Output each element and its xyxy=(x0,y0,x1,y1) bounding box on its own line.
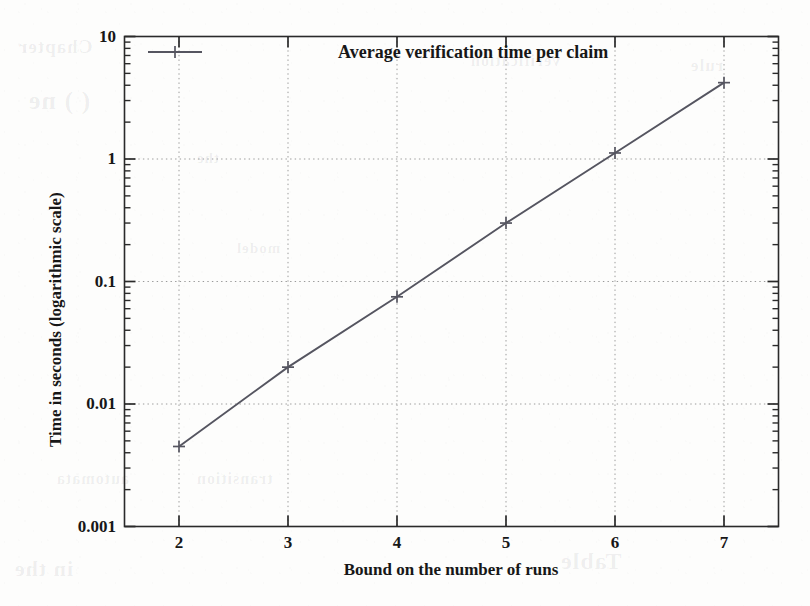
legend-key-sample xyxy=(148,46,202,58)
data-series-layer xyxy=(173,77,730,453)
y-tick-label: 1 xyxy=(20,149,116,169)
y-tick-label: 0.001 xyxy=(20,517,116,537)
x-tick-label: 6 xyxy=(611,533,620,553)
chart-figure: 1010.10.010.001 234567 Bound on the numb… xyxy=(0,0,810,606)
x-tick-label: 5 xyxy=(502,533,511,553)
x-tick-label: 3 xyxy=(284,533,293,553)
x-tick-label: 7 xyxy=(720,533,729,553)
x-tick-label: 4 xyxy=(393,533,402,553)
x-axis-title: Bound on the number of runs xyxy=(344,560,559,580)
y-tick-label: 10 xyxy=(20,27,116,47)
legend-entry-label: Average verification time per claim xyxy=(338,42,608,63)
plot-canvas xyxy=(0,0,810,606)
y-tick-label: 0.01 xyxy=(20,394,116,414)
y-tick-label: 0.1 xyxy=(20,272,116,292)
y-axis-title: Time in seconds (logarithmic scale) xyxy=(46,192,66,447)
x-tick-label: 2 xyxy=(175,533,184,553)
